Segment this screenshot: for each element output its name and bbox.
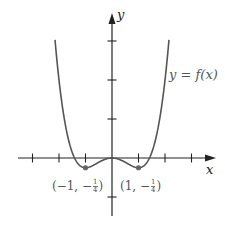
left-minimum-label-text: (−1, − [52, 179, 92, 193]
x-axis-label: x [206, 163, 213, 176]
y-axis [109, 13, 116, 216]
right-minimum-label-text: (1, − [120, 179, 150, 193]
left-minimum-label: (−1, −14) [52, 179, 103, 194]
quarter-fraction: 14 [151, 179, 155, 194]
minimum-point-marker [83, 165, 88, 170]
minimum-point-marker [136, 165, 141, 170]
right-minimum-label: (1, −14) [120, 179, 161, 194]
y-axis-arrow-icon [109, 13, 116, 24]
quarter-fraction: 14 [93, 179, 97, 194]
function-plot [0, 0, 225, 227]
y-axis-label: y [117, 8, 124, 21]
curve-label: y = f(x) [169, 68, 218, 81]
x-axis-arrow-icon [205, 155, 216, 162]
